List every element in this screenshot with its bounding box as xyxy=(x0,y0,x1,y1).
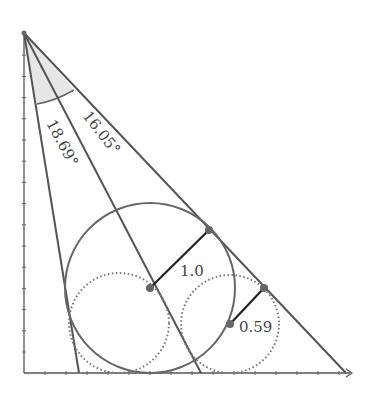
tangent-point-small xyxy=(260,284,268,292)
tangent-point-large xyxy=(205,226,213,234)
center-point-large xyxy=(146,284,154,292)
radius-label-large: 1.0 xyxy=(180,262,204,280)
angle-label-left: 18.69° xyxy=(42,116,82,169)
geometry-diagram: 18.69° 16.05° 1.0 0.59 xyxy=(0,0,372,401)
apex-point xyxy=(22,31,27,36)
center-point-small xyxy=(226,320,234,328)
radius-label-small: 0.59 xyxy=(239,318,272,336)
